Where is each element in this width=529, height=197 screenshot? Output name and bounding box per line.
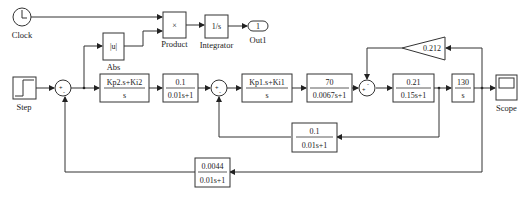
out1-label: Out1 (250, 35, 267, 45)
pi-outer-den: s (123, 91, 126, 100)
out1-text: 1 (256, 22, 260, 31)
tf021-den: 0.15s+1 (401, 91, 427, 100)
tf130-den: s (461, 91, 464, 100)
tf130-num: 130 (457, 78, 469, 87)
abs-text: |u| (110, 42, 117, 51)
simulink-diagram: Clock |u| Abs × Product 1/s Integrator 1… (0, 0, 529, 197)
gain-text: 0.212 (423, 44, 441, 53)
pi-outer-num: Kp2.s+Ki2 (107, 78, 142, 87)
clock-label: Clock (12, 30, 33, 40)
tf70-den: 0.0067s+1 (313, 91, 347, 100)
product-label: Product (161, 39, 188, 49)
filter1-den: 0.01s+1 (168, 91, 194, 100)
fb-outer-num: 0.0044 (202, 162, 224, 171)
scope-screen-icon (499, 78, 514, 88)
scope-block[interactable] (496, 75, 517, 100)
clock-block[interactable] (13, 8, 31, 26)
pi-inner-den: s (265, 91, 268, 100)
wire-inner-feedback-sum2 (219, 97, 291, 137)
fb-inner-den: 0.01s+1 (302, 141, 328, 150)
wire-error-abs (84, 46, 102, 88)
product-text: × (172, 21, 177, 30)
tf021-num: 0.21 (407, 78, 421, 87)
sum3-plus: + (362, 86, 366, 92)
sum3-minus: - (367, 81, 369, 87)
wire-abs-product (124, 31, 162, 46)
sum1-minus: - (63, 89, 65, 95)
integrator-text: 1/s (212, 22, 221, 31)
step-block[interactable] (13, 77, 36, 99)
step-label: Step (16, 102, 31, 112)
fb-inner-num: 0.1 (310, 127, 320, 136)
scope-label: Scope (496, 103, 517, 113)
filter1-num: 0.1 (176, 78, 186, 87)
abs-label: Abs (107, 62, 121, 72)
wire-outer-feedback-sum1 (65, 97, 195, 172)
sum2-minus: - (219, 89, 221, 95)
integrator-label: Integrator (200, 40, 234, 50)
fb-outer-den: 0.01s+1 (200, 176, 226, 185)
tf70-num: 70 (326, 78, 334, 87)
pi-inner-num: Kp1.s+Ki1 (249, 78, 284, 87)
